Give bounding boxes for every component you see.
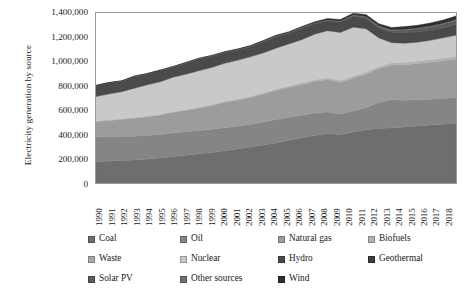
x-axis-tick-labels: 1990199119921993199419951996199719981999…: [95, 186, 457, 226]
x-tick-label: 1993: [132, 208, 142, 226]
legend-label: Wind: [289, 274, 309, 283]
x-tick-label: 2005: [282, 208, 292, 226]
legend-item-natural-gas[interactable]: Natural gas: [278, 229, 332, 249]
x-tick-label: 2016: [419, 208, 429, 226]
legend-swatch-icon: [368, 236, 375, 243]
legend-item-wind[interactable]: Wind: [278, 269, 309, 289]
x-tick-label: 2003: [257, 208, 267, 226]
legend-swatch-icon: [180, 276, 187, 283]
legend-swatch-icon: [278, 276, 285, 283]
legend-item-oil[interactable]: Oil: [180, 229, 203, 249]
x-tick-label: 2008: [319, 208, 329, 226]
legend-item-nuclear[interactable]: Nuclear: [180, 249, 220, 269]
x-tick-label: 2002: [244, 208, 254, 226]
legend-label: Nuclear: [191, 254, 220, 263]
y-tick-label: 1,000,000: [51, 56, 88, 66]
y-tick-label: 600,000: [58, 105, 88, 115]
x-tick-label: 2009: [332, 208, 342, 226]
chart-legend: CoalOilNatural gasBiofuelsWasteNuclearHy…: [88, 229, 462, 291]
x-tick-label: 2001: [232, 208, 242, 226]
x-tick-label: 2010: [344, 208, 354, 226]
x-tick-label: 2012: [369, 208, 379, 226]
y-tick-label: 1,200,000: [51, 32, 88, 42]
x-tick-label: 2018: [444, 208, 454, 226]
electricity-generation-area-chart: Electricity generation by source 1,400,0…: [0, 0, 467, 298]
x-tick-label: 2013: [382, 208, 392, 226]
legend-swatch-icon: [278, 256, 285, 263]
legend-swatch-icon: [368, 256, 375, 263]
legend-label: Geothermal: [379, 254, 423, 263]
legend-swatch-icon: [88, 236, 95, 243]
legend-label: Coal: [99, 234, 117, 243]
legend-swatch-icon: [278, 236, 285, 243]
legend-label: Biofuels: [379, 234, 411, 243]
legend-label: Waste: [99, 254, 121, 263]
x-tick-label: 1990: [94, 208, 104, 226]
legend-label: Solar PV: [99, 274, 133, 283]
legend-item-hydro[interactable]: Hydro: [278, 249, 313, 269]
legend-swatch-icon: [88, 276, 95, 283]
x-tick-label: 1995: [157, 208, 167, 226]
y-tick-label: 200,000: [58, 154, 88, 164]
y-tick-label: 1,400,000: [51, 7, 88, 17]
x-tick-label: 2000: [219, 208, 229, 226]
x-tick-label: 2015: [407, 208, 417, 226]
legend-swatch-icon: [88, 256, 95, 263]
legend-item-waste[interactable]: Waste: [88, 249, 121, 269]
y-tick-label: 400,000: [58, 130, 88, 140]
legend-label: Hydro: [289, 254, 313, 263]
legend-label: Natural gas: [289, 234, 332, 243]
legend-item-solar-pv[interactable]: Solar PV: [88, 269, 133, 289]
legend-label: Other sources: [191, 274, 242, 283]
legend-row: CoalOilNatural gasBiofuels: [88, 229, 462, 249]
legend-row: Solar PVOther sourcesWind: [88, 269, 462, 289]
legend-item-geothermal[interactable]: Geothermal: [368, 249, 423, 269]
y-tick-label: 0: [83, 179, 88, 189]
legend-item-coal[interactable]: Coal: [88, 229, 117, 249]
x-tick-label: 2017: [431, 208, 441, 226]
legend-item-biofuels[interactable]: Biofuels: [368, 229, 411, 249]
x-tick-label: 1991: [107, 208, 117, 226]
x-tick-label: 2004: [269, 208, 279, 226]
x-tick-label: 2014: [394, 208, 404, 226]
x-tick-label: 2006: [294, 208, 304, 226]
x-tick-label: 1992: [119, 208, 129, 226]
y-axis-tick-labels: 1,400,0001,200,0001,000,000800,000600,00…: [16, 12, 92, 184]
x-tick-label: 1996: [169, 208, 179, 226]
plot-area: [95, 12, 457, 184]
legend-swatch-icon: [180, 236, 187, 243]
legend-label: Oil: [191, 234, 203, 243]
x-tick-label: 2011: [357, 209, 367, 226]
stacked-area-svg: [96, 13, 456, 183]
x-tick-label: 1997: [182, 208, 192, 226]
legend-item-other-sources[interactable]: Other sources: [180, 269, 242, 289]
x-tick-label: 1999: [207, 208, 217, 226]
legend-swatch-icon: [180, 256, 187, 263]
x-tick-label: 1994: [144, 208, 154, 226]
y-tick-label: 800,000: [58, 81, 88, 91]
x-tick-label: 1998: [194, 208, 204, 226]
legend-row: WasteNuclearHydroGeothermal: [88, 249, 462, 269]
x-tick-label: 2007: [307, 208, 317, 226]
